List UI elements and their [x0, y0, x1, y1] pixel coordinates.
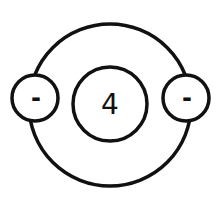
electron-right: - [163, 75, 209, 121]
electron-left-label: - [31, 84, 41, 112]
nucleus: 4 [73, 67, 147, 141]
atom-diagram: 4 - - [0, 0, 219, 205]
electron-right-label: - [182, 84, 192, 112]
electron-left: - [12, 75, 58, 121]
nucleus-label: 4 [101, 88, 119, 121]
